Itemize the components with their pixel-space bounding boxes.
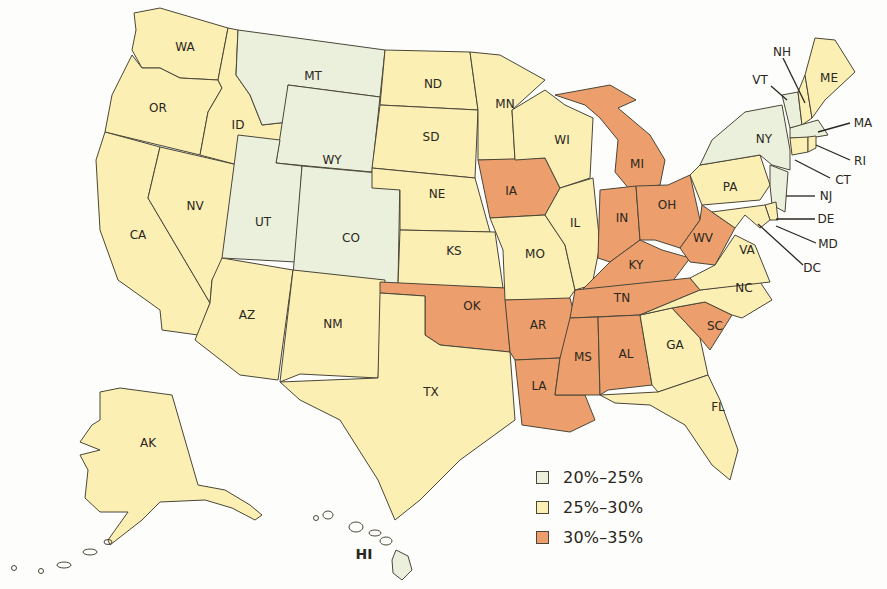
state-IA <box>478 158 560 218</box>
label-WY: WY <box>322 153 342 167</box>
label-NJ: NJ <box>820 189 833 203</box>
label-NC: NC <box>735 281 752 295</box>
legend-swatch <box>536 531 549 544</box>
aleutian-island <box>39 569 44 574</box>
label-NH: NH <box>773 45 791 59</box>
state-RI <box>808 136 816 152</box>
leader-CT <box>795 160 830 178</box>
leader-VT <box>771 86 787 100</box>
label-ND: ND <box>424 77 442 91</box>
label-HI: HI <box>356 546 373 562</box>
leader-DC <box>758 224 803 265</box>
map-legend: 20%–25% 25%–30% 30%–35% <box>536 462 644 552</box>
legend-swatch <box>536 471 549 484</box>
legend-item-25-30: 25%–30% <box>536 492 644 522</box>
label-OR: OR <box>149 101 167 115</box>
label-OK: OK <box>463 299 481 313</box>
legend-item-30-35: 30%–35% <box>536 522 644 552</box>
us-choropleth-map: WA OR CA NV ID AZ MT WY UT CO NM ND SD N… <box>0 0 887 589</box>
label-MT: MT <box>304 69 322 83</box>
label-RI: RI <box>854 154 866 168</box>
label-NE: NE <box>429 187 446 201</box>
label-KY: KY <box>629 258 644 272</box>
state-KS <box>398 230 503 288</box>
aleutian-island <box>57 562 71 568</box>
label-NV: NV <box>186 199 204 213</box>
label-SD: SD <box>423 130 440 144</box>
label-OH: OH <box>658 198 676 212</box>
label-UT: UT <box>255 215 272 229</box>
label-IN: IN <box>616 211 629 225</box>
legend-swatch <box>536 501 549 514</box>
label-AR: AR <box>530 318 547 332</box>
label-DC: DC <box>803 261 821 275</box>
label-ME: ME <box>820 71 838 85</box>
label-MD: MD <box>818 237 838 251</box>
label-GA: GA <box>666 338 684 352</box>
legend-item-20-25: 20%–25% <box>536 462 644 492</box>
label-WI: WI <box>554 133 569 147</box>
label-TX: TX <box>422 385 439 399</box>
label-ID: ID <box>232 118 245 132</box>
label-MO: MO <box>525 247 545 261</box>
label-CT: CT <box>835 173 851 187</box>
leader-RI <box>816 145 850 160</box>
state-HI <box>392 550 412 580</box>
label-WA: WA <box>175 40 195 54</box>
label-AK: AK <box>140 436 157 450</box>
label-VA: VA <box>739 243 755 257</box>
label-MS: MS <box>574 350 592 364</box>
label-KS: KS <box>446 244 462 258</box>
label-CO: CO <box>342 231 360 245</box>
aleutian-island <box>83 549 97 555</box>
label-NY: NY <box>756 132 773 146</box>
state-AK <box>80 388 262 545</box>
label-LA: LA <box>531 379 547 393</box>
label-CA: CA <box>130 228 147 242</box>
legend-label: 30%–35% <box>563 528 644 547</box>
aleutian-island <box>12 566 17 571</box>
label-DE: DE <box>818 212 835 226</box>
label-VT: VT <box>752 73 768 87</box>
label-AL: AL <box>619 347 634 361</box>
label-PA: PA <box>723 180 738 194</box>
label-MI: MI <box>630 157 644 171</box>
leader-MD <box>776 226 816 243</box>
label-NM: NM <box>323 317 342 331</box>
state-CT <box>790 137 808 155</box>
label-MA: MA <box>854 116 873 130</box>
label-SC: SC <box>707 319 723 333</box>
label-FL: FL <box>711 400 725 414</box>
label-TN: TN <box>613 291 630 305</box>
label-AZ: AZ <box>239 308 255 322</box>
label-MN: MN <box>495 97 514 111</box>
label-IL: IL <box>570 216 581 230</box>
label-IA: IA <box>505 184 518 198</box>
legend-label: 20%–25% <box>563 468 644 487</box>
label-WV: WV <box>693 231 714 245</box>
legend-label: 25%–30% <box>563 498 644 517</box>
